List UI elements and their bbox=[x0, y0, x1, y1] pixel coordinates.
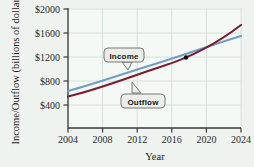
chart-figure: $2000 $1600 $1200 $800 $400 2004 2008 20… bbox=[0, 0, 254, 167]
x-tick-label-2020: 2020 bbox=[196, 134, 216, 145]
y-tick-label-2000: $2000 bbox=[35, 4, 60, 15]
callout-income-label: Income bbox=[109, 52, 139, 61]
y-tick-label-1200: $1200 bbox=[35, 52, 60, 63]
x-axis-title: Year bbox=[145, 151, 165, 162]
x-tick-label-2024: 2024 bbox=[231, 134, 251, 145]
y-tick-label-400: $400 bbox=[40, 100, 60, 111]
chart-svg: $2000 $1600 $1200 $800 $400 2004 2008 20… bbox=[0, 0, 254, 167]
y-tick-label-800: $800 bbox=[40, 76, 60, 87]
callout-outflow-label: Outflow bbox=[127, 98, 159, 107]
x-tick-label-2008: 2008 bbox=[93, 134, 113, 145]
x-tick-label-2016: 2016 bbox=[162, 134, 182, 145]
x-tick-label-2004: 2004 bbox=[58, 134, 78, 145]
y-tick-label-1600: $1600 bbox=[35, 28, 60, 39]
intersection-marker bbox=[184, 55, 188, 59]
y-axis-title: Income/Outflow (billions of dollars) bbox=[10, 0, 22, 145]
x-tick-label-2012: 2012 bbox=[127, 134, 147, 145]
